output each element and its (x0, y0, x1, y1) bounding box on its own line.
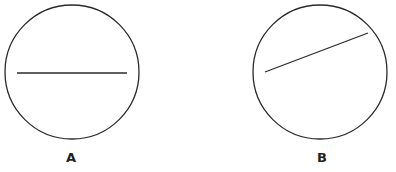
diagram-canvas: A B (0, 0, 396, 172)
label-b: B (317, 150, 327, 165)
figure-a: A (5, 5, 139, 165)
chord-b (265, 33, 368, 72)
circle-b (253, 5, 387, 139)
figure-b: B (253, 5, 387, 165)
circle-a (5, 5, 139, 139)
label-a: A (66, 150, 76, 165)
